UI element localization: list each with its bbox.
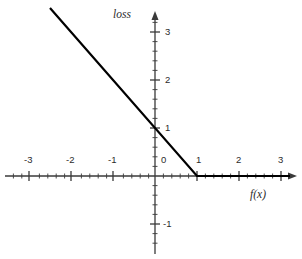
x-tick-label-neg1: -1: [108, 155, 116, 165]
y-axis-arrowhead: [152, 11, 159, 20]
x-axis-title: f(x): [250, 189, 266, 201]
x-tick-label-two: 2: [236, 155, 241, 165]
x-tick-label-three: 3: [278, 155, 283, 165]
x-tick-label-one: 1: [196, 155, 201, 165]
y-axis: [152, 11, 159, 254]
x-tick-label-neg2: -2: [66, 155, 74, 165]
x-tick-label-neg3: -3: [24, 155, 32, 165]
y-tick-label-two: 2: [165, 75, 170, 85]
y-tick-label-three: 3: [165, 27, 170, 37]
y-tick-label-neg1: -1: [163, 219, 171, 229]
y-axis-title: loss: [113, 9, 131, 21]
hinge-loss-chart: -3 -2 -1 0 1 2 3 3 2 1 -1 loss f(x): [0, 0, 302, 259]
x-tick-label-zero: 0: [161, 155, 166, 165]
y-tick-label-one: 1: [165, 123, 170, 133]
plot-canvas: [0, 0, 302, 259]
